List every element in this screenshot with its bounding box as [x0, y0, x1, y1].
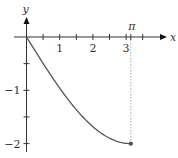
x-axis-arrow [160, 34, 167, 40]
y-axis-arrow [24, 17, 30, 24]
x-axis-label: x [170, 31, 177, 44]
y-tick-label: −2 [4, 138, 20, 151]
x-tick-label: 3 [123, 42, 130, 55]
x-tick-label-pi: π [127, 20, 136, 33]
labels: 123π−1−2xy [4, 3, 177, 151]
x-tick-label: 2 [89, 42, 96, 55]
chart: 123π−1−2xy [0, 0, 178, 158]
axes [14, 17, 167, 152]
endpoint-marker [129, 141, 133, 145]
y-tick-label: −1 [4, 84, 20, 97]
y-axis-label: y [21, 3, 29, 16]
marks [27, 37, 134, 146]
x-tick-label: 1 [56, 42, 63, 55]
series-line [27, 37, 131, 144]
